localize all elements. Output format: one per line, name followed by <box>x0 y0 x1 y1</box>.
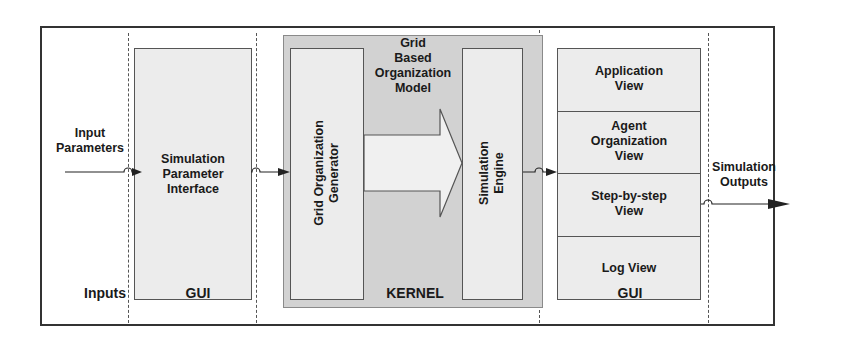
input-arrowhead-icon <box>132 168 142 176</box>
interface-to-generator-arrowhead-icon <box>278 168 290 176</box>
output-arrowhead-icon <box>768 199 790 209</box>
block-arrow-icon <box>364 109 462 217</box>
engine-to-views-arrowhead-icon <box>546 168 557 176</box>
output-arrow-line <box>701 200 770 204</box>
connector-arrows <box>0 0 850 357</box>
input-arrow-line <box>65 168 134 172</box>
engine-to-views-line <box>523 168 548 172</box>
interface-to-generator-line <box>251 168 280 172</box>
